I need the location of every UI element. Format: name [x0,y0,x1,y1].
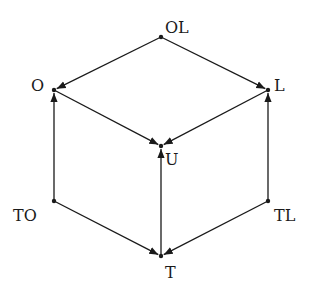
node-label-to: TO [13,206,37,225]
node-labels: OLOLUTOTLT [13,18,296,282]
node-label-t: T [165,263,176,282]
node-tl [266,199,270,203]
edge-to-to-t [54,201,158,255]
edge-o-to-u [54,90,158,145]
node-t [159,254,163,258]
node-ol [159,35,163,39]
node-label-o: O [31,76,44,95]
node-label-tl: TL [274,206,296,225]
node-l [266,88,270,92]
cube-lattice-diagram: OLOLUTOTLT [0,0,312,294]
node-label-ol: OL [165,18,189,37]
node-u [159,144,163,148]
node-label-u: U [165,150,178,169]
edge-ol-to-o [57,37,161,89]
edge-tl-to-t [164,201,268,255]
node-to [52,199,56,203]
node-o [52,88,56,92]
node-label-l: L [274,76,285,95]
edge-ol-to-l [161,37,265,89]
edge-l-to-u [164,90,268,145]
